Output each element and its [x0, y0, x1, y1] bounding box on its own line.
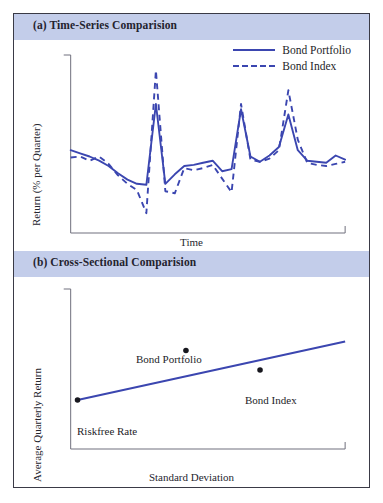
figure-container: (a) Time-Series Comparision Bond Portfol…: [13, 13, 370, 488]
legend-item-bond-index: Bond Index: [233, 58, 351, 74]
panel-b-x-axis-title: Standard Deviation: [14, 471, 369, 483]
legend-label-bond-portfolio: Bond Portfolio: [282, 44, 351, 56]
cross-sectional-chart: [14, 277, 369, 487]
panel-b-plot-area: Bond Portfolio Bond Index Riskfree Rate …: [14, 277, 369, 487]
solid-line-swatch-icon: [233, 45, 275, 55]
security-market-line: [78, 342, 346, 401]
point-label-bond-index: Bond Index: [245, 394, 297, 406]
panel-time-series: (a) Time-Series Comparision Bond Portfol…: [14, 14, 369, 251]
data-point-bond-index: [257, 367, 263, 373]
panel-a-plot-area: Bond Portfolio Bond Index Return (% per …: [14, 40, 369, 251]
panel-a-y-axis-title: Return (% per Quarter): [30, 124, 42, 226]
panel-a-legend: Bond Portfolio Bond Index: [233, 42, 351, 74]
panel-a-x-axis-title: Time: [14, 236, 369, 248]
series-bond-portfolio-line: [71, 104, 345, 185]
data-point-riskfree-rate: [75, 397, 81, 403]
point-label-bond-portfolio: Bond Portfolio: [136, 353, 202, 365]
point-label-riskfree-rate: Riskfree Rate: [77, 425, 137, 437]
panel-b-title: (b) Cross-Sectional Comparision: [33, 256, 196, 268]
dashed-line-swatch-icon: [233, 61, 275, 71]
series-bond-index-line: [71, 70, 345, 213]
panel-cross-sectional: (b) Cross-Sectional Comparision Bond Por…: [14, 251, 369, 487]
panel-b-y-axis-title: Average Quarterly Return: [31, 368, 43, 482]
legend-item-bond-portfolio: Bond Portfolio: [233, 42, 351, 58]
panel-a-title: (a) Time-Series Comparision: [33, 19, 177, 31]
legend-label-bond-index: Bond Index: [282, 60, 336, 72]
